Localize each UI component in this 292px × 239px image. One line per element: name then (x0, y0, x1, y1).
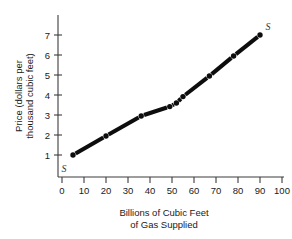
x-tick-label-20: 20 (101, 185, 112, 196)
y-tick-label-6: 6 (45, 50, 50, 61)
x-axis-title-line1: Billions of Cubic Feet (119, 207, 209, 218)
x-tick-label-30: 30 (123, 185, 134, 196)
curve-segment (76, 138, 104, 154)
curve-segment (179, 99, 181, 101)
data-point (139, 113, 144, 118)
x-axis-title-line2: of Gas Supplied (130, 219, 198, 230)
y-tick-label-3: 3 (45, 110, 50, 121)
x-tick-label-90: 90 (255, 185, 266, 196)
data-point (257, 32, 262, 37)
x-tick-label-50: 50 (167, 185, 178, 196)
data-point (180, 94, 185, 99)
curve-segment (144, 108, 167, 116)
data-point (174, 100, 179, 105)
curve-segment (236, 37, 258, 54)
curve-segment (109, 117, 139, 134)
data-point (103, 133, 108, 138)
y-tick-label-1: 1 (45, 150, 50, 161)
y-axis-title: Price (dollars per thousand cubic feet) (13, 53, 35, 139)
curve-segment (212, 58, 232, 74)
x-axis-ticks: 0 10 20 30 40 50 60 70 80 90 100 (59, 177, 290, 196)
supply-curve-figure: Price (dollars per thousand cubic feet) … (0, 0, 292, 239)
supply-label-upper: S (266, 21, 271, 32)
x-tick-label-10: 10 (79, 185, 90, 196)
data-point (207, 73, 212, 78)
y-tick-label-4: 4 (45, 90, 50, 101)
y-axis-title-line1: Price (dollars per (13, 60, 24, 132)
data-point (231, 53, 236, 58)
data-point (167, 104, 172, 109)
y-tick-label-2: 2 (45, 130, 50, 141)
x-tick-label-60: 60 (189, 185, 200, 196)
x-axis-title: Billions of Cubic Feet of Gas Supplied (119, 207, 209, 230)
x-tick-label-70: 70 (211, 185, 222, 196)
data-point (70, 152, 75, 157)
curve-segment (172, 104, 173, 105)
y-axis-ticks: 7 6 5 4 3 2 1 (45, 30, 62, 161)
y-tick-label-5: 5 (45, 70, 50, 81)
x-tick-label-0: 0 (59, 185, 64, 196)
supply-curve (70, 32, 262, 157)
x-tick-label-40: 40 (145, 185, 156, 196)
curve-segment (185, 78, 207, 95)
x-tick-label-100: 100 (274, 185, 290, 196)
supply-label-lower: S (62, 163, 67, 174)
y-axis-title-line2: thousand cubic feet) (24, 53, 35, 139)
chart-svg: Price (dollars per thousand cubic feet) … (0, 0, 292, 239)
x-tick-label-80: 80 (233, 185, 244, 196)
y-tick-label-7: 7 (45, 30, 50, 41)
